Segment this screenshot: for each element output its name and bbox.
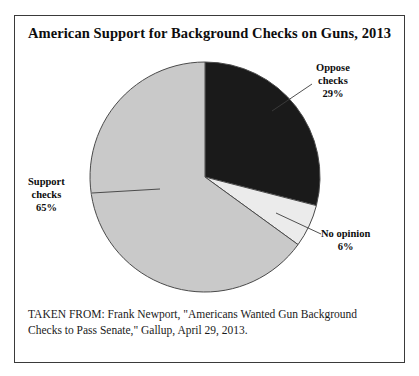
pie-label-oppose-line1: Oppose bbox=[316, 62, 350, 75]
source-caption: TAKEN FROM: Frank Newport, "Americans Wa… bbox=[28, 306, 388, 339]
pie-label-support-line2: checks bbox=[28, 189, 65, 202]
pie-label-oppose: Oppose checks 29% bbox=[316, 62, 350, 100]
pie-label-oppose-percent: 29% bbox=[316, 88, 350, 101]
page-title: American Support for Background Checks o… bbox=[15, 25, 404, 42]
pie-label-oppose-line2: checks bbox=[316, 75, 350, 88]
pie-label-no-opinion-line1: No opinion bbox=[321, 228, 370, 241]
pie-label-no-opinion-percent: 6% bbox=[321, 241, 370, 254]
pie-label-support-percent: 65% bbox=[28, 202, 65, 215]
pie-label-no-opinion: No opinion 6% bbox=[321, 228, 370, 254]
pie-label-support: Support checks 65% bbox=[28, 176, 65, 214]
pie-label-support-line1: Support bbox=[28, 176, 65, 189]
